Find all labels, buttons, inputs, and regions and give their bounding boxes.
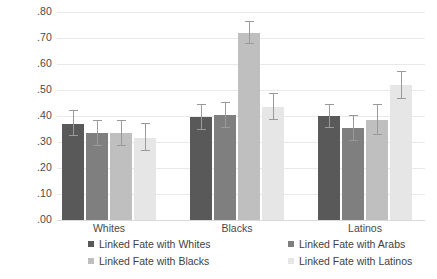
- error-bar: [145, 123, 146, 152]
- error-bar-cap: [373, 134, 382, 135]
- category-label-latinos: Latinos: [305, 222, 425, 234]
- bar[interactable]: [214, 115, 236, 220]
- error-bar: [377, 104, 378, 135]
- error-bar-cap: [141, 123, 150, 124]
- error-bar-cap: [245, 21, 254, 22]
- bar-group-blacks: [190, 12, 284, 220]
- bar-slot: [366, 12, 388, 220]
- bar-slot: [62, 12, 84, 220]
- bar-group-latinos: [318, 12, 412, 220]
- error-bar: [273, 93, 274, 120]
- error-bar-cap: [349, 140, 358, 141]
- error-bar-cap: [269, 119, 278, 120]
- error-bar-cap: [69, 135, 78, 136]
- y-axis-tick-label: .30: [6, 135, 52, 147]
- bar-slot: [134, 12, 156, 220]
- error-bar-cap: [397, 98, 406, 99]
- error-bar-cap: [197, 104, 206, 105]
- bar-slot: [110, 12, 132, 220]
- error-bar-cap: [325, 104, 334, 105]
- error-bar: [353, 115, 354, 141]
- bar-slot: [390, 12, 412, 220]
- plot-area: [57, 12, 425, 220]
- y-axis: .80.70.60.50.40.30.20.10.00: [0, 12, 52, 220]
- bar[interactable]: [86, 133, 108, 220]
- error-bar-cap: [221, 127, 230, 128]
- error-bar-cap: [349, 115, 358, 116]
- error-bar: [201, 104, 202, 130]
- bar-slot: [86, 12, 108, 220]
- bar-slot: [238, 12, 260, 220]
- bar-slot: [342, 12, 364, 220]
- y-axis-tick-label: .80: [6, 5, 52, 17]
- error-bar-cap: [373, 104, 382, 105]
- error-bar: [73, 110, 74, 136]
- legend-swatch-icon: [288, 258, 294, 264]
- error-bar-cap: [69, 110, 78, 111]
- error-bar: [249, 21, 250, 44]
- y-axis-tick-label: .60: [6, 57, 52, 69]
- error-bar-cap: [93, 145, 102, 146]
- bar[interactable]: [238, 33, 260, 220]
- category-label-whites: Whites: [49, 222, 169, 234]
- legend-item[interactable]: Linked Fate with Arabs: [288, 238, 437, 250]
- bar-chart: .80.70.60.50.40.30.20.10.00 WhitesBlacks…: [0, 0, 437, 279]
- bar[interactable]: [262, 107, 284, 220]
- legend-swatch-icon: [88, 241, 94, 247]
- error-bar-cap: [325, 127, 334, 128]
- legend-item[interactable]: Linked Fate with Blacks: [88, 255, 288, 267]
- legend-swatch-icon: [288, 241, 294, 247]
- bar[interactable]: [110, 133, 132, 220]
- y-axis-tick-label: .70: [6, 31, 52, 43]
- error-bar-cap: [141, 150, 150, 151]
- error-bar: [97, 120, 98, 146]
- error-bar-cap: [397, 71, 406, 72]
- bar-group-whites: [62, 12, 156, 220]
- error-bar-cap: [93, 120, 102, 121]
- legend-label: Linked Fate with Arabs: [299, 238, 405, 250]
- legend-item[interactable]: Linked Fate with Whites: [88, 238, 288, 250]
- bar-slot: [214, 12, 236, 220]
- bar-slot: [262, 12, 284, 220]
- error-bar-cap: [117, 145, 126, 146]
- legend-swatch-icon: [88, 258, 94, 264]
- y-axis-tick-label: .20: [6, 161, 52, 173]
- chart-legend: Linked Fate with WhitesLinked Fate with …: [88, 238, 378, 267]
- legend-item[interactable]: Linked Fate with Latinos: [288, 255, 437, 267]
- bar[interactable]: [190, 117, 212, 220]
- error-bar-cap: [197, 129, 206, 130]
- error-bar-cap: [245, 43, 254, 44]
- error-bar-cap: [269, 93, 278, 94]
- y-axis-tick-label: .40: [6, 109, 52, 121]
- y-axis-tick-label: .10: [6, 187, 52, 199]
- bar[interactable]: [318, 116, 340, 220]
- bar-slot: [318, 12, 340, 220]
- legend-label: Linked Fate with Whites: [99, 238, 210, 250]
- error-bar: [225, 102, 226, 128]
- error-bar: [329, 104, 330, 127]
- bar-slot: [190, 12, 212, 220]
- axis-baseline: [57, 220, 425, 221]
- legend-label: Linked Fate with Blacks: [99, 255, 209, 267]
- legend-label: Linked Fate with Latinos: [299, 255, 412, 267]
- y-axis-tick-label: .00: [6, 213, 52, 225]
- y-axis-tick-label: .50: [6, 83, 52, 95]
- bar[interactable]: [342, 128, 364, 220]
- error-bar-cap: [221, 102, 230, 103]
- bar[interactable]: [390, 85, 412, 220]
- error-bar: [121, 120, 122, 146]
- error-bar: [401, 71, 402, 100]
- category-label-blacks: Blacks: [177, 222, 297, 234]
- bar[interactable]: [62, 124, 84, 220]
- error-bar-cap: [117, 120, 126, 121]
